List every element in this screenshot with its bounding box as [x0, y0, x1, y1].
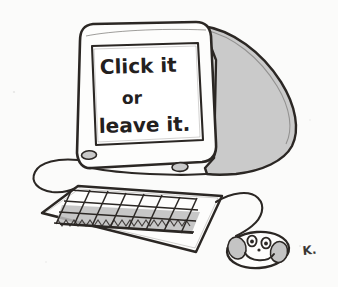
mouse-nose [257, 248, 260, 251]
screen-line-1: Click it [99, 53, 177, 79]
artist-signature: K. [302, 243, 317, 258]
screen-line-2: or [122, 88, 143, 108]
screen-line-3: leave it. [99, 112, 191, 138]
monitor-button-left[interactable] [81, 150, 96, 159]
cartoon-illustration: Click it or leave it. [0, 0, 338, 287]
monitor-button-right[interactable] [172, 162, 188, 172]
computer-cartoon-svg: Click it or leave it. [0, 0, 338, 287]
